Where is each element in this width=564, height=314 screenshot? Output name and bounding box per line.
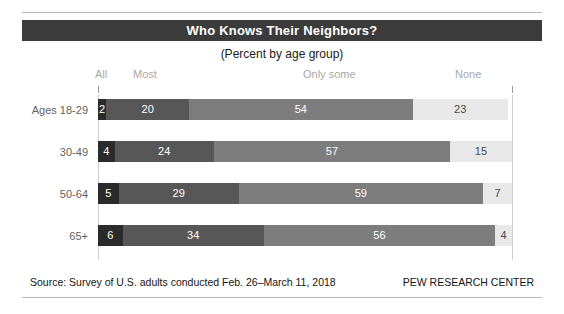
bar-segment-value: 4 [103,146,109,157]
bar-segment-value: 7 [494,188,500,199]
row-label: 30-49 [0,146,88,158]
bar-segment-value: 24 [158,146,170,157]
legend-item-all: All [95,68,107,80]
chart-legend: All Most Only some None [0,68,564,84]
bar-segment-value: 34 [187,230,199,241]
bottom-divider [22,297,542,298]
stacked-bar: 5 29 59 7 [98,183,512,204]
legend-item-most: Most [133,68,157,80]
brand-label: PEW RESEARCH CENTER [403,276,534,288]
bar-segment-most: 20 [106,99,189,120]
bar-segment-all: 5 [98,183,119,204]
bar-row: 65+ 6 34 56 4 [0,221,564,263]
source-note: Source: Survey of U.S. adults conducted … [30,276,336,288]
stacked-bar: 2 20 54 23 [98,99,512,120]
chart-title: Who Knows Their Neighbors? [187,24,378,37]
chart-subtitle: (Percent by age group) [0,47,564,61]
bar-row: 50-64 5 29 59 7 [0,179,564,221]
bar-segment-value: 6 [107,230,113,241]
bar-segment-value: 20 [142,104,154,115]
bar-segment-only-some: 56 [264,225,496,246]
bar-segment-value: 57 [326,146,338,157]
bar-segment-value: 54 [295,104,307,115]
stacked-bar: 6 34 56 4 [98,225,512,246]
bar-segment-value: 29 [173,188,185,199]
bar-segment-value: 15 [475,146,487,157]
bar-segment-value: 23 [454,104,466,115]
chart-figure: Who Knows Their Neighbors? (Percent by a… [0,0,564,314]
top-divider [22,12,542,13]
bar-segment-none: 15 [450,141,512,162]
row-label: 50-64 [0,188,88,200]
legend-item-none: None [455,68,481,80]
bar-segment-all: 2 [98,99,106,120]
bar-segment-none: 4 [495,225,512,246]
bar-segment-only-some: 54 [189,99,413,120]
axis-tick-left [98,86,99,93]
bar-segment-none: 23 [413,99,508,120]
bar-segment-value: 56 [373,230,385,241]
bar-row: 30-49 4 24 57 15 [0,137,564,179]
bar-segment-value: 5 [105,188,111,199]
bar-segment-most: 34 [123,225,264,246]
bar-segment-all: 4 [98,141,115,162]
chart-footer: Source: Survey of U.S. adults conducted … [30,276,534,290]
bar-row: Ages 18-29 2 20 54 23 [0,95,564,137]
bar-segment-all: 6 [98,225,123,246]
legend-item-only-some: Only some [303,68,356,80]
bar-segment-value: 2 [99,104,105,115]
bar-segment-none: 7 [483,183,512,204]
chart-plot-area: Ages 18-29 2 20 54 23 30-49 4 24 57 15 5… [0,95,564,263]
row-label: 65+ [0,230,88,242]
bar-segment-only-some: 57 [214,141,450,162]
row-label: Ages 18-29 [0,104,88,116]
bar-segment-value: 59 [355,188,367,199]
chart-title-band: Who Knows Their Neighbors? [22,20,542,41]
bar-segment-only-some: 59 [239,183,483,204]
bar-segment-most: 24 [115,141,214,162]
axis-tick-right [512,86,513,93]
bar-segment-most: 29 [119,183,239,204]
stacked-bar: 4 24 57 15 [98,141,512,162]
bar-segment-value: 4 [501,230,507,241]
